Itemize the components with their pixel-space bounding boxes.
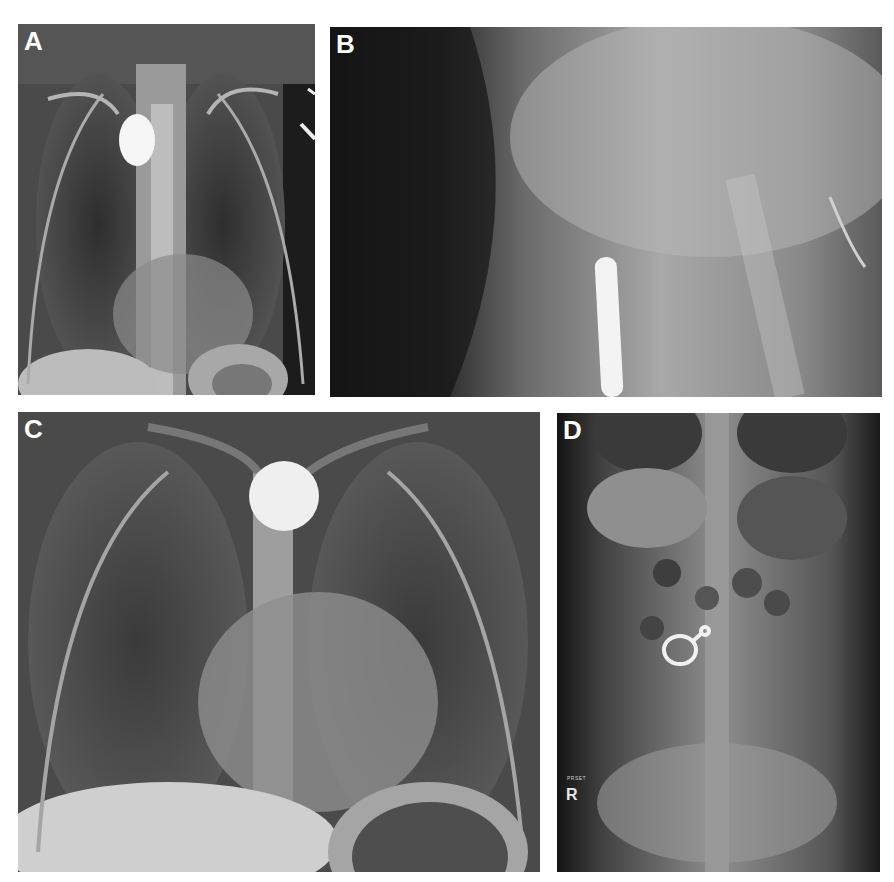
xray-image-c <box>18 412 540 872</box>
foreign-body-coin-c <box>249 461 319 531</box>
panel-c: C <box>18 412 540 872</box>
xray-image-b <box>330 27 882 397</box>
side-marker-r: R <box>566 786 578 804</box>
panel-label-b: B <box>336 31 355 57</box>
foreign-body-coin-a <box>119 114 155 166</box>
panel-label-d: D <box>563 417 582 443</box>
panel-b: B <box>330 27 882 397</box>
xray-image-a <box>18 24 315 395</box>
marker-text-d: PRSET <box>567 775 586 781</box>
panel-label-a: A <box>24 28 43 54</box>
panel-d: D PRSET R <box>557 413 880 872</box>
xray-image-d <box>557 413 880 872</box>
panel-label-c: C <box>24 416 43 442</box>
panel-a: A <box>18 24 315 395</box>
